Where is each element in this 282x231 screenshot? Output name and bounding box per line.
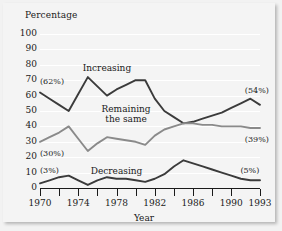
x-tick-label-1990: 1990 [220, 198, 243, 208]
x-tick-1993 [260, 189, 261, 196]
annotation-3: (3%) [40, 166, 59, 175]
y-tick-label-30: 30 [26, 137, 37, 146]
x-tick-label-1986: 1986 [182, 198, 205, 208]
y-axis-tick-labels: 0102030405060708090100 [3, 34, 37, 188]
x-tick-1972 [59, 189, 60, 196]
y-tick-label-60: 60 [26, 91, 37, 100]
y-tick-label-10: 10 [26, 168, 37, 177]
x-axis-title: Year [3, 213, 282, 223]
annotation-5: (5%) [240, 166, 259, 175]
annotation-30: (30%) [40, 149, 64, 158]
chart-canvas: Percentage 0102030405060708090100 (62%)(… [3, 3, 275, 222]
annotation-54: (54%) [245, 86, 269, 95]
y-tick-label-90: 90 [26, 44, 37, 53]
series-line-decreasing [40, 160, 260, 185]
x-tick-1984 [174, 189, 175, 196]
x-tick-1970 [40, 189, 41, 196]
x-tick-1986 [193, 189, 194, 196]
y-tick-label-40: 40 [26, 121, 37, 130]
x-tick-label-1974: 1974 [67, 198, 90, 208]
x-tick-label-1993: 1993 [249, 198, 272, 208]
series-label-increasing: Increasing [83, 63, 131, 73]
y-tick-label-0: 0 [31, 183, 37, 192]
y-tick-label-80: 80 [26, 60, 37, 69]
y-tick-label-20: 20 [26, 152, 37, 161]
annotation-39: (39%) [245, 135, 269, 144]
series-label-decreasing: Decreasing [91, 166, 143, 176]
x-tick-label-1978: 1978 [105, 198, 128, 208]
series-line-increasing [40, 77, 260, 123]
x-tick-1980 [136, 189, 137, 196]
x-tick-1974 [78, 189, 79, 196]
x-tick-1978 [117, 189, 118, 196]
x-tick-1976 [97, 189, 98, 196]
x-tick-1988 [212, 189, 213, 196]
x-tick-label-1982: 1982 [143, 198, 166, 208]
y-tick-label-50: 50 [26, 106, 37, 115]
y-axis-title: Percentage [25, 10, 78, 20]
x-tick-label-1970: 1970 [29, 198, 52, 208]
plot-area: (62%)(30%)(3%)(54%)(39%)(5%) IncreasingR… [40, 34, 260, 188]
series-label-the-same: the same [105, 114, 146, 124]
y-tick-label-70: 70 [26, 75, 37, 84]
chart-figure: Percentage 0102030405060708090100 (62%)(… [0, 0, 282, 231]
annotation-62: (62%) [40, 77, 64, 86]
series-line-remaining-the-same [40, 123, 260, 151]
x-axis-line [40, 188, 260, 189]
x-tick-1990 [231, 189, 232, 196]
y-tick-label-100: 100 [20, 29, 37, 38]
x-tick-1982 [155, 189, 156, 196]
